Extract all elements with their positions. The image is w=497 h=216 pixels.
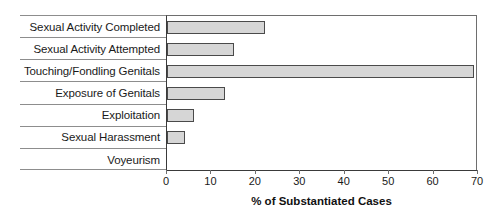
bar-row (167, 82, 476, 104)
x-tick (166, 170, 167, 174)
category-label: Exposure of Genitals (20, 82, 166, 104)
x-tick (210, 170, 211, 174)
x-tick (433, 170, 434, 174)
x-tick-label: 50 (382, 175, 394, 187)
category-label: Exploitation (20, 105, 166, 127)
x-axis-title: % of Substantiated Cases (166, 195, 477, 207)
category-label: Sexual Activity Completed (20, 16, 166, 38)
category-label: Sexual Harassment (20, 127, 166, 149)
x-tick-label: 20 (249, 175, 261, 187)
x-tick-label: 30 (293, 175, 305, 187)
bar-row (167, 127, 476, 149)
x-tick (255, 170, 256, 174)
bar-row (167, 149, 476, 171)
bar-row (167, 16, 476, 38)
x-tick-label: 40 (338, 175, 350, 187)
x-tick-label: 0 (163, 175, 169, 187)
x-tick (477, 170, 478, 174)
category-label: Sexual Activity Attempted (20, 38, 166, 60)
bar-row (167, 105, 476, 127)
category-label-column: Sexual Activity Completed Sexual Activit… (20, 15, 166, 170)
x-tick (344, 170, 345, 174)
bar-row (167, 60, 476, 82)
bar-chart: Sexual Activity Completed Sexual Activit… (0, 0, 497, 216)
category-label: Touching/Fondling Genitals (20, 60, 166, 82)
x-tick-label: 60 (426, 175, 438, 187)
bar (167, 87, 225, 100)
bar (167, 131, 185, 144)
x-tick-label: 70 (471, 175, 483, 187)
bar-row (167, 38, 476, 60)
plot-area (166, 15, 477, 170)
bar (167, 21, 265, 34)
x-tick-label: 10 (204, 175, 216, 187)
x-axis-line (166, 170, 477, 171)
category-label: Voyeurism (20, 149, 166, 171)
x-tick (388, 170, 389, 174)
x-tick (299, 170, 300, 174)
bar (167, 65, 474, 78)
bar (167, 109, 194, 122)
bar (167, 43, 234, 56)
